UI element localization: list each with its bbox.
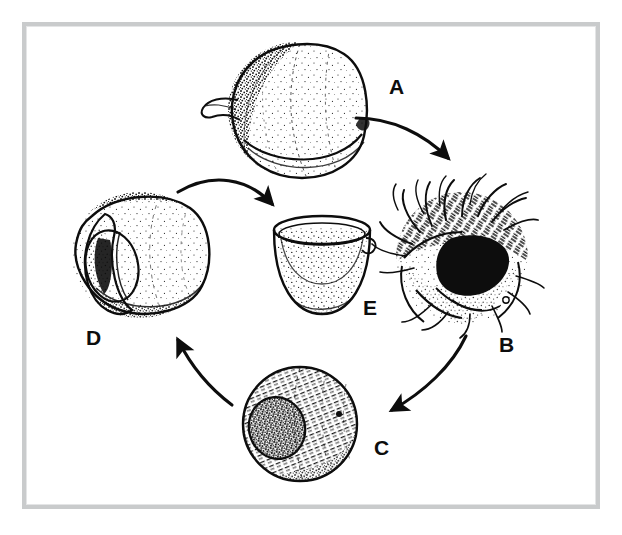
object-c-dehusked-nut: [242, 366, 360, 484]
arrow-b-to-c: [392, 336, 466, 410]
figure-page: A B C D E Coconut processing stages cloc…: [0, 0, 622, 535]
label-d: D: [86, 327, 101, 348]
object-a-whole-coconut: [202, 42, 370, 179]
object-e-shell-bowl: [270, 216, 376, 320]
label-c: C: [374, 437, 389, 458]
figure-canvas: [0, 0, 622, 535]
arrow-c-to-d: [178, 340, 232, 405]
object-b-husk-opened: [372, 174, 544, 338]
object-d-cut-open-shell: [70, 190, 210, 320]
label-e: E: [363, 297, 377, 318]
label-a: A: [389, 76, 404, 97]
arrow-a-to-b: [356, 118, 448, 158]
label-b: B: [499, 334, 514, 355]
arrow-d-to-e: [178, 180, 272, 204]
